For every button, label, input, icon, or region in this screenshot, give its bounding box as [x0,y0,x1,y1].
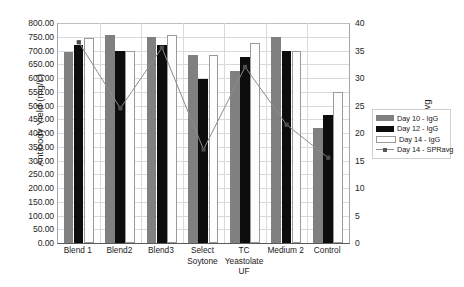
x-axis-category-label-line: Select [182,245,224,256]
chart-container: Antibody Yield (mg/L) SPRavg 800.00750.0… [0,0,464,287]
x-axis-labels: Blend 1Blend2Blend3SelectSoytoneTCYeasto… [57,245,348,287]
legend-item[interactable]: Day 14 - SPRavg [376,145,447,155]
legend-item-label: Day 14 - IgG [399,135,440,144]
y-axis-left-tick-label: 0.00 [38,238,54,248]
x-axis-category-label-line: Medium 2 [265,245,307,256]
y-axis-left-tick-label: 750.00 [28,32,54,42]
x-axis-category-label: SelectSoytone [182,245,224,266]
spravg-marker [285,123,289,127]
x-axis-category-label: Medium 2 [265,245,307,256]
x-axis-category-label: Blend 1 [57,245,99,256]
y-axis-right-tick-label: 30 [355,73,365,83]
y-axis-right-tick-label: 40 [355,18,365,28]
legend-item-label: Day 10 - IgG [397,114,438,123]
y-axis-right-tick-label: 35 [355,46,365,56]
y-axis-left-tick-label: 500.00 [28,101,54,111]
spravg-polyline [79,42,328,158]
spravg-line-series [58,23,349,243]
x-axis-category-label: TCYeastolateUF [223,245,265,277]
y-axis-right-tick-label: 20 [355,128,365,138]
spravg-marker [77,40,81,44]
y-axis-left-tick-label: 400.00 [28,128,54,138]
y-axis-left-tick-label: 200.00 [28,183,54,193]
spravg-marker [160,46,164,50]
spravg-marker [243,65,247,69]
x-axis-category-label-line: Control [306,245,348,256]
y-axis-left-tick-label: 600.00 [28,73,54,83]
y-axis-left-tick-label: 350.00 [28,142,54,152]
spravg-marker [118,106,122,110]
legend-item[interactable]: Day 14 - IgG [376,134,447,144]
y-axis-left-tick-label: 50.00 [33,224,54,234]
x-axis-category-label-line: Blend 1 [57,245,99,256]
swatch-line-marker-icon [376,147,394,153]
y-axis-right-tick-label: 25 [355,101,365,111]
y-axis-left-ticks: 800.00750.00700.00650.00600.00550.00500.… [12,0,54,287]
x-axis-category-label-line: Blend2 [99,245,141,256]
x-axis-category-label-line: UF [223,266,265,277]
y-axis-left-tick-label: 450.00 [28,114,54,124]
y-axis-right-tick-label: 5 [355,211,360,221]
legend-item[interactable]: Day 12 - IgG [376,124,447,134]
y-axis-left-tick-label: 150.00 [28,197,54,207]
x-axis-category-label-line: Soytone [182,256,224,267]
y-axis-left-tick-label: 100.00 [28,211,54,221]
swatch-black-icon [376,126,394,132]
y-axis-right-tick-label: 0 [355,238,360,248]
chart-legend: Day 10 - IgGDay 12 - IgGDay 14 - IgGDay … [372,109,451,159]
x-axis-category-label-line: TC [223,245,265,256]
swatch-gray-icon [376,115,394,121]
y-axis-left-tick-label: 800.00 [28,18,54,28]
x-axis-category-label-line: Yeastolate [223,256,265,267]
y-axis-right-tick-label: 15 [355,156,365,166]
y-axis-left-tick-label: 650.00 [28,59,54,69]
swatch-white-icon [376,136,396,143]
legend-item-label: Day 12 - IgG [397,124,438,133]
legend-item[interactable]: Day 10 - IgG [376,113,447,123]
x-axis-category-label-line: Blend3 [140,245,182,256]
x-axis-category-label: Control [306,245,348,256]
y-axis-left-tick-label: 250.00 [28,169,54,179]
y-axis-left-tick-label: 300.00 [28,156,54,166]
spravg-marker [326,156,330,160]
plot-area [57,23,350,244]
x-axis-category-label: Blend3 [140,245,182,256]
x-axis-category-label: Blend2 [99,245,141,256]
legend-item-label: Day 14 - SPRavg [397,145,453,154]
spravg-marker [201,147,205,151]
y-axis-left-tick-label: 700.00 [28,46,54,56]
y-axis-left-tick-label: 550.00 [28,87,54,97]
y-axis-right-tick-label: 10 [355,183,365,193]
